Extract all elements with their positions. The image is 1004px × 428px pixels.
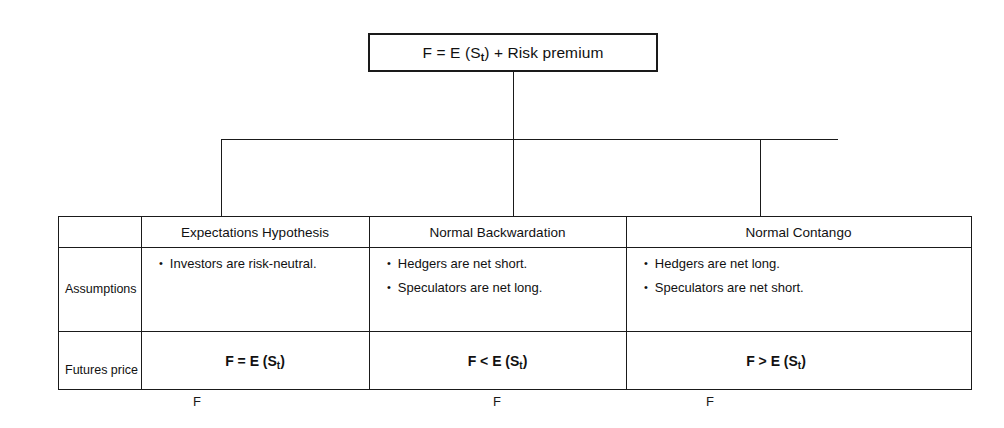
below-table-mark-col-2: F xyxy=(493,394,501,409)
connector-branch-right xyxy=(760,139,761,216)
table-header-col-1-label: Expectations Hypothesis xyxy=(181,225,329,240)
root-formula-box: F = E (St) + Risk premium xyxy=(368,33,658,72)
bullet-icon: • xyxy=(387,282,391,293)
formula-prefix: F > E (S xyxy=(746,353,798,369)
formula-subscript: t xyxy=(519,360,522,371)
row-label-assumptions: Assumptions xyxy=(59,247,141,331)
formula-prefix: F = E (S xyxy=(225,353,277,369)
list-item: • Hedgers are net short. xyxy=(387,256,626,271)
connector-branch-left xyxy=(221,139,222,216)
connector-horizontal-bar xyxy=(221,139,838,140)
list-item-text: Hedgers are net short. xyxy=(398,256,527,271)
table-header-col-1: Expectations Hypothesis xyxy=(141,217,369,247)
table-header-col-2: Normal Backwardation xyxy=(369,217,626,247)
bullet-icon: • xyxy=(159,258,163,269)
root-formula-prefix: F = E (S xyxy=(423,44,481,61)
list-item: • Hedgers are net long. xyxy=(644,256,971,271)
below-table-mark-col-3: F xyxy=(706,394,714,409)
futures-price-col-3-formula: F > E (St) xyxy=(746,353,806,369)
list-item-text: Speculators are net long. xyxy=(398,280,543,295)
table-header-col-3-label: Normal Contango xyxy=(746,225,852,240)
below-table-mark-col-1: F xyxy=(193,394,201,409)
assumptions-col-1: • Investors are risk-neutral. xyxy=(141,247,369,331)
assumptions-col-2: • Hedgers are net short. • Speculators a… xyxy=(369,247,626,331)
root-formula-text: F = E (St) + Risk premium xyxy=(423,45,604,61)
list-item: • Speculators are net long. xyxy=(387,280,626,295)
list-item-text: Speculators are net short. xyxy=(655,280,804,295)
formula-subscript: t xyxy=(798,360,801,371)
table-header-col-3: Normal Contango xyxy=(626,217,971,247)
below-table-mark-col-3-text: F xyxy=(706,394,714,409)
below-table-mark-col-1-text: F xyxy=(193,394,201,409)
assumptions-col-3: • Hedgers are net long. • Speculators ar… xyxy=(626,247,971,331)
formula-suffix: ) xyxy=(801,353,806,369)
formula-suffix: ) xyxy=(523,353,528,369)
list-item: • Speculators are net short. xyxy=(644,280,971,295)
row-label-futures-price-text: Futures price xyxy=(65,363,138,377)
diagram-canvas: F = E (St) + Risk premium Expectations H… xyxy=(0,0,1004,428)
table-header-col-2-label: Normal Backwardation xyxy=(430,225,566,240)
root-formula-suffix: ) + Risk premium xyxy=(484,44,603,61)
formula-subscript: t xyxy=(277,360,280,371)
below-table-mark-col-2-text: F xyxy=(493,394,501,409)
bullet-icon: • xyxy=(644,282,648,293)
futures-price-col-2-formula: F < E (St) xyxy=(468,353,528,369)
list-item: • Investors are risk-neutral. xyxy=(159,256,369,271)
futures-price-col-1: F = E (St) xyxy=(141,331,369,391)
futures-price-col-3: F > E (St) xyxy=(626,331,926,391)
futures-price-col-1-formula: F = E (St) xyxy=(225,353,285,369)
root-formula-subscript: t xyxy=(481,51,485,63)
futures-price-col-2: F < E (St) xyxy=(369,331,626,391)
list-item-text: Investors are risk-neutral. xyxy=(170,256,317,271)
formula-suffix: ) xyxy=(280,353,285,369)
formula-prefix: F < E (S xyxy=(468,353,520,369)
row-label-futures-price: Futures price xyxy=(59,331,141,391)
connector-stem-vertical xyxy=(513,72,514,216)
row-label-assumptions-text: Assumptions xyxy=(65,282,137,296)
bullet-icon: • xyxy=(644,258,648,269)
list-item-text: Hedgers are net long. xyxy=(655,256,780,271)
comparison-table: Expectations Hypothesis Normal Backwarda… xyxy=(58,216,972,390)
bullet-icon: • xyxy=(387,258,391,269)
